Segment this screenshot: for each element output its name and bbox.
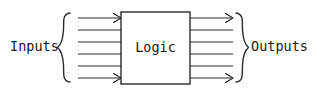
outputs-label: Outputs (251, 38, 308, 54)
output-wires-group (190, 14, 233, 83)
input-wires-group (78, 14, 121, 83)
outputs-brace-icon (236, 13, 249, 82)
inputs-brace-icon (58, 13, 71, 82)
diagram-canvas: Inputs Logic (0, 0, 318, 94)
logic-block-label: Logic (135, 39, 176, 55)
logic-block-diagram: Inputs Logic (0, 0, 318, 94)
inputs-label: Inputs (10, 38, 59, 54)
